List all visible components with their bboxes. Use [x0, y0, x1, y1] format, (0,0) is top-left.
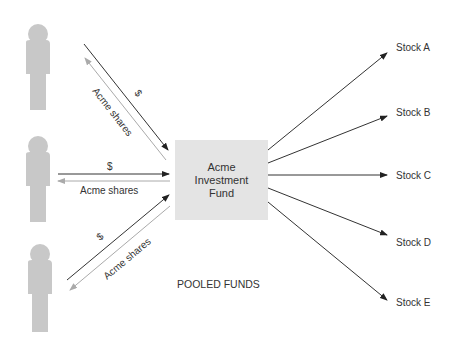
shares-label-2: Acme shares	[80, 185, 138, 196]
stock-arrow-e	[268, 202, 387, 300]
fund-name-line-2: Investment	[195, 174, 249, 187]
person-icon-2	[26, 136, 50, 222]
stock-label-d: Stock D	[396, 237, 431, 248]
stock-label-e: Stock E	[396, 297, 431, 308]
stock-label-b: Stock B	[396, 107, 431, 118]
fund-name-line-1: Acme	[207, 161, 235, 174]
person-icon-3	[28, 244, 52, 332]
fund-name-line-3: Fund	[209, 187, 234, 200]
money-label-1: $	[132, 87, 144, 99]
money-label-3: $	[94, 230, 106, 242]
stock-arrow-b	[268, 116, 387, 163]
fund-box: Acme Investment Fund	[175, 140, 268, 220]
pooled-funds-caption: POOLED FUNDS	[177, 278, 260, 290]
person-icon-1	[26, 24, 50, 110]
shares-arrow-3	[70, 206, 170, 290]
shares-arrow-1	[85, 58, 166, 160]
stock-label-a: Stock A	[396, 42, 430, 53]
stock-label-c: Stock C	[396, 170, 431, 181]
money-label-2: $	[107, 161, 113, 172]
stock-arrow-a	[268, 53, 387, 150]
stock-arrow-d	[268, 188, 387, 235]
